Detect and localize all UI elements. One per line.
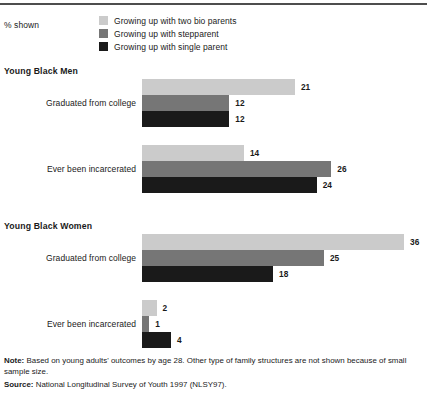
- bar-value-label: 12: [235, 99, 244, 107]
- bar: [142, 250, 324, 266]
- footnote-note-text: Based on young adults' outcomes by age 2…: [4, 356, 406, 376]
- bar-row: 14: [142, 145, 427, 161]
- legend-swatch-icon: [99, 29, 108, 38]
- footnote-note: Note: Based on young adults' outcomes by…: [4, 355, 423, 377]
- bar: [142, 161, 331, 177]
- bar-row: 4: [142, 332, 427, 348]
- footnote-source: Source: National Longitudinal Survey of …: [4, 379, 423, 390]
- bar-row: 12: [142, 95, 427, 111]
- bar-group: Ever been incarcerated142624: [0, 145, 427, 193]
- bar-value-label: 1: [155, 320, 160, 328]
- bar: [142, 300, 157, 316]
- chart-legend: % shown Growing up with two bio parentsG…: [0, 14, 427, 58]
- bar-value-label: 14: [250, 149, 259, 157]
- legend-item-label: Growing up with stepparent: [114, 29, 219, 39]
- bar-group-label: Graduated from college: [0, 79, 136, 127]
- bar: [142, 95, 229, 111]
- bar-row: 25: [142, 250, 427, 266]
- footnote-source-text: National Longitudinal Survey of Youth 19…: [34, 380, 227, 389]
- bar-group-bars: 211212: [142, 79, 427, 127]
- bar-value-label: 26: [337, 165, 346, 173]
- bar-group-bars: 214: [142, 300, 427, 348]
- bar: [142, 111, 229, 127]
- bar-row: 2: [142, 300, 427, 316]
- bar: [142, 145, 244, 161]
- bar-row: 18: [142, 266, 427, 282]
- legend-item: Growing up with stepparent: [99, 27, 237, 40]
- bar: [142, 234, 404, 250]
- bar-row: 26: [142, 161, 427, 177]
- unit-label: % shown: [4, 20, 39, 30]
- bar-group-label: Graduated from college: [0, 234, 136, 282]
- bar-group: Ever been incarcerated214: [0, 300, 427, 348]
- section-title: Young Black Women: [4, 221, 427, 234]
- chart-footer: Note: Based on young adults' outcomes by…: [4, 355, 423, 391]
- bar-group: Graduated from college211212: [0, 79, 427, 127]
- bar: [142, 316, 149, 332]
- legend-items: Growing up with two bio parentsGrowing u…: [99, 14, 237, 53]
- bar-row: 36: [142, 234, 427, 250]
- bar-value-label: 18: [279, 270, 288, 278]
- bar: [142, 332, 171, 348]
- bar: [142, 177, 317, 193]
- bar: [142, 266, 273, 282]
- bar-row: 24: [142, 177, 427, 193]
- bar-group-bars: 142624: [142, 145, 427, 193]
- footnote-note-label: Note:: [4, 356, 24, 365]
- bar-group-label: Ever been incarcerated: [0, 300, 136, 348]
- legend-item-label: Growing up with two bio parents: [114, 16, 237, 26]
- bar-group: Graduated from college362518: [0, 234, 427, 282]
- bar-value-label: 21: [301, 83, 310, 91]
- legend-swatch-icon: [99, 16, 108, 25]
- bar-group-bars: 362518: [142, 234, 427, 282]
- footnote-source-label: Source:: [4, 380, 34, 389]
- legend-item: Growing up with single parent: [99, 40, 237, 53]
- legend-swatch-icon: [99, 42, 108, 51]
- bar: [142, 79, 295, 95]
- bar-value-label: 36: [410, 238, 419, 246]
- chart-section: Young Black MenGraduated from college211…: [0, 66, 427, 211]
- bar-value-label: 12: [235, 115, 244, 123]
- bar-row: 12: [142, 111, 427, 127]
- legend-item-label: Growing up with single parent: [114, 42, 227, 52]
- bar-row: 21: [142, 79, 427, 95]
- section-title: Young Black Men: [4, 66, 427, 79]
- bar-value-label: 2: [163, 304, 168, 312]
- chart-section: Young Black WomenGraduated from college3…: [0, 221, 427, 366]
- legend-item: Growing up with two bio parents: [99, 14, 237, 27]
- bar-value-label: 25: [330, 254, 339, 262]
- bar-group-label: Ever been incarcerated: [0, 145, 136, 193]
- top-divider: [0, 3, 427, 5]
- bar-value-label: 24: [323, 181, 332, 189]
- bar-value-label: 4: [177, 336, 182, 344]
- bar-row: 1: [142, 316, 427, 332]
